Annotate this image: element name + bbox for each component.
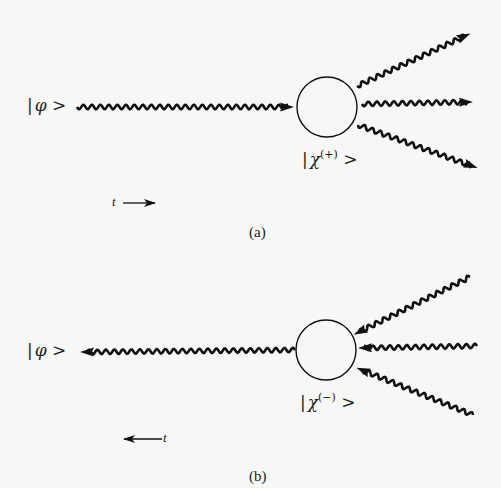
incoming-wave-b-upper (360, 276, 470, 331)
outgoing-wave-a-middle (362, 100, 467, 106)
scattered-state-label-a: |χ(+) > (302, 148, 358, 169)
panel-a-diagram (77, 33, 478, 168)
outgoing-wave-a-upper (357, 35, 465, 87)
scatterer-circle-a (297, 77, 357, 137)
outgoing-wave-a-upper-head-icon (456, 33, 471, 43)
outgoing-wave-b-head-icon (80, 347, 94, 356)
outgoing-wave-a-lower (358, 125, 471, 168)
incoming-wave-b-middle (364, 344, 477, 350)
time-label-a: t (112, 194, 116, 210)
initial-state-label-a: |φ > (27, 95, 66, 115)
caption-b: (b) (249, 468, 267, 485)
caption-a: (a) (249, 224, 266, 241)
scattered-state-label-b: |χ(−) > (300, 391, 356, 412)
scattering-figure: |φ > |χ(+) > t (a) |φ > |χ(−) > t (b) (0, 0, 501, 488)
scatterer-circle-b (296, 320, 356, 380)
outgoing-wave-b (86, 348, 295, 354)
time-label-b: t (163, 430, 167, 446)
incoming-wave-b-lower (363, 370, 473, 415)
panel-b-diagram (80, 276, 477, 415)
incoming-wave-a (77, 105, 288, 109)
initial-state-label-b: |φ > (27, 340, 66, 360)
incoming-wave-b-lower-head-icon (356, 368, 371, 377)
wave-diagram (0, 0, 501, 488)
